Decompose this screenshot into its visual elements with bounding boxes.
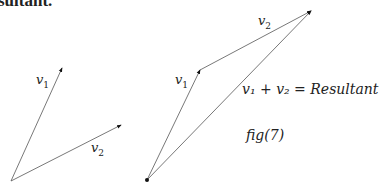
resultant-label: v₁ + v₂ = Resultant [242, 81, 378, 97]
left-v1-label: v1 [36, 72, 49, 90]
figure-caption: fig(7) [246, 127, 284, 143]
right-v1-arrow [147, 70, 200, 180]
left-figure [11, 68, 121, 181]
vector-diagram [0, 0, 384, 194]
right-v1-label: v1 [175, 72, 188, 90]
left-v2-label: v2 [91, 140, 104, 158]
origin-dot [145, 178, 149, 182]
right-v2-arrow [200, 11, 311, 70]
right-v2-label: v2 [258, 13, 271, 31]
left-v2-arrow [11, 125, 121, 181]
